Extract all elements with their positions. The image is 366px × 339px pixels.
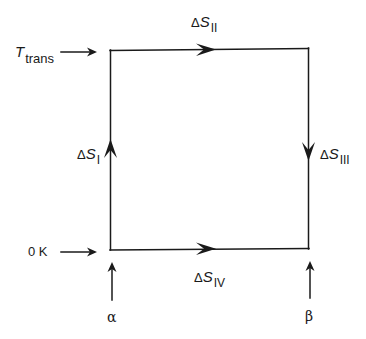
dS3-symbol: S [329, 145, 339, 162]
dS1-subscript: I [97, 153, 100, 167]
dS1-label: ΔSI [77, 146, 100, 162]
dS2-symbol: S [200, 13, 210, 30]
dS1-delta: Δ [77, 147, 86, 162]
dS4-label: ΔSIV [194, 269, 225, 285]
ttrans-symbol: T [15, 43, 24, 60]
dS3-delta: Δ [320, 147, 329, 162]
dS2-subscript: II [211, 21, 218, 35]
dS3-subscript: III [340, 153, 350, 167]
ttrans-label: Ttrans [15, 44, 54, 60]
dS4-delta: Δ [194, 270, 203, 285]
dS3-label: ΔSIII [320, 146, 350, 162]
beta-phase-label: β [305, 309, 313, 323]
dS1-symbol: S [86, 145, 96, 162]
alpha-phase-label: α [107, 310, 116, 324]
dS2-delta: Δ [191, 15, 200, 30]
zero-kelvin-label: 0 K [28, 245, 48, 258]
dS4-subscript: IV [214, 276, 225, 290]
entropy-cycle-diagram [0, 0, 366, 339]
dS2-label: ΔSII [191, 14, 217, 30]
dS4-symbol: S [203, 268, 213, 285]
ttrans-subscript: trans [25, 51, 54, 66]
